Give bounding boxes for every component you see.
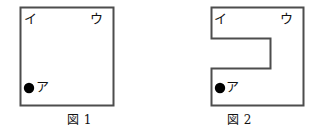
figure-2: イ ウ ア 図 2 [160, 0, 319, 140]
vertex-label-i: イ [214, 12, 227, 25]
vertex-label-a: ア [36, 80, 49, 93]
vertex-label-u: ウ [90, 12, 103, 25]
vertex-label-a: ア [226, 80, 239, 93]
figure-1: イ ウ ア 図 1 [0, 0, 159, 140]
figure-2-shape-area [160, 0, 319, 110]
position-marker-dot [215, 83, 225, 93]
figure-1-caption: 図 1 [0, 112, 159, 128]
position-marker-dot [24, 83, 34, 93]
figure-2-caption: 図 2 [160, 112, 319, 128]
vertex-label-i: イ [24, 12, 37, 25]
vertex-label-u: ウ [280, 12, 293, 25]
figures-container: イ ウ ア 図 1 イ ウ ア 図 2 [0, 0, 319, 140]
